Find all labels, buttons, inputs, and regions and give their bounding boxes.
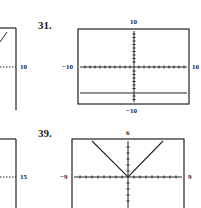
problem-number-39: 39. bbox=[38, 128, 52, 139]
graph-39-left-label: −9 bbox=[60, 174, 68, 181]
partial-graph-bottom-left bbox=[0, 139, 16, 208]
partial-graph-top-left bbox=[0, 28, 16, 110]
graph-39 bbox=[72, 139, 184, 208]
graph-39-right-label: 9 bbox=[188, 174, 192, 181]
partial-bottom-right-label: 15 bbox=[20, 174, 27, 181]
graphs-canvas bbox=[0, 0, 201, 208]
graph-31-bottom-label: −10 bbox=[126, 108, 137, 115]
problem-number-31: 31. bbox=[38, 20, 52, 31]
partial-top-right-label: 10 bbox=[20, 64, 27, 71]
graph-39-top-label: 6 bbox=[126, 130, 130, 137]
graph-31-left-label: −10 bbox=[62, 64, 73, 71]
graph-31-right-label: 10 bbox=[192, 64, 199, 71]
graph-31 bbox=[78, 29, 189, 104]
graph-31-top-label: 10 bbox=[130, 19, 137, 26]
